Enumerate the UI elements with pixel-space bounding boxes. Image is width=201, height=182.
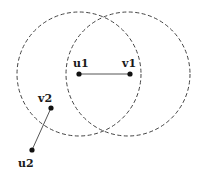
node-v1 — [127, 71, 132, 76]
label-u1: u1 — [73, 57, 89, 70]
background — [0, 0, 201, 182]
network-diagram: u1 v1 v2 u2 — [0, 0, 201, 182]
label-u2: u2 — [18, 157, 34, 170]
node-u2 — [29, 147, 34, 152]
label-v2: v2 — [37, 92, 52, 105]
node-v2 — [48, 105, 53, 110]
label-v1: v1 — [121, 57, 136, 70]
node-u1 — [76, 71, 81, 76]
